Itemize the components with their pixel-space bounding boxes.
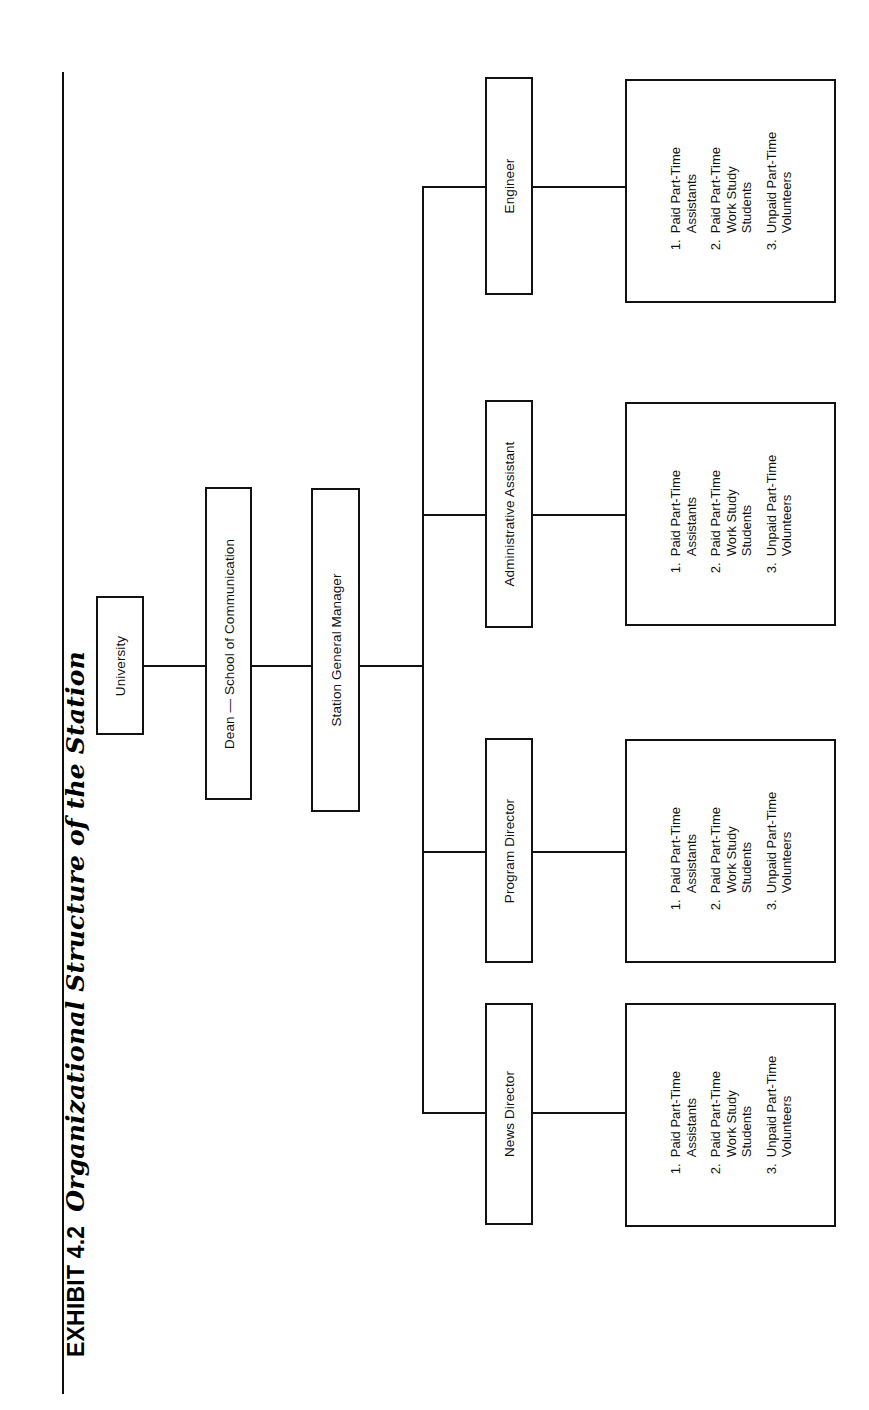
list-item-line: Assistants	[683, 1071, 699, 1157]
node-university[interactable]: University	[96, 596, 144, 735]
list-item-line: Paid Part-Time	[667, 470, 683, 556]
exhibit-page: EXHIBIT 4.2 Organizational Structure of …	[0, 0, 869, 1410]
connector-university-to-dean	[143, 665, 207, 667]
list-item-line: Unpaid Part-Time	[763, 132, 779, 233]
list-item-text: Paid Part-Time Work Study Students	[707, 470, 754, 556]
list-item: 2. Paid Part-Time Work Study Students	[707, 132, 754, 250]
list-item-number: 3.	[763, 233, 794, 250]
node-engineer[interactable]: Engineer	[485, 77, 533, 295]
connector-admin-assistant-to-staff	[533, 514, 626, 516]
list-item: 1. Paid Part-Time Assistants	[667, 132, 698, 250]
list-item-number: 3.	[763, 1157, 794, 1174]
list-item-line: Unpaid Part-Time	[763, 792, 779, 893]
list-item-line: Paid Part-Time	[667, 1071, 683, 1157]
list-item: 3. Unpaid Part-Time Volunteers	[763, 792, 794, 910]
list-item-text: Unpaid Part-Time Volunteers	[763, 132, 794, 233]
list-item-number: 1.	[667, 1157, 698, 1174]
connector-spine-to-engineer	[422, 186, 486, 188]
list-item-line: Unpaid Part-Time	[763, 455, 779, 556]
list-item-line: Paid Part-Time	[707, 807, 723, 893]
node-administrative-assistant[interactable]: Administrative Assistant	[485, 400, 533, 628]
staff-list-administrative-assistant-rotated: 1. Paid Part-Time Assistants 2. Paid Par…	[667, 455, 794, 573]
node-program-director[interactable]: Program Director	[485, 738, 533, 963]
node-program-director-label: Program Director	[502, 798, 517, 902]
list-item-number: 2.	[707, 556, 754, 573]
list-item-number: 3.	[763, 893, 794, 910]
list-item-line: Paid Part-Time	[707, 1071, 723, 1157]
list-item-line: Unpaid Part-Time	[763, 1056, 779, 1157]
list-item: 2. Paid Part-Time Work Study Students	[707, 1056, 754, 1174]
list-item-line: Paid Part-Time	[707, 147, 723, 233]
list-item-line: Assistants	[683, 807, 699, 893]
list-item-number: 1.	[667, 893, 698, 910]
staff-box-engineer[interactable]: 1. Paid Part-Time Assistants 2. Paid Par…	[625, 79, 836, 303]
list-item-line: Paid Part-Time	[667, 147, 683, 233]
list-item-line: Students	[738, 1071, 754, 1157]
list-item-line: Students	[738, 807, 754, 893]
connector-spine-to-news-director	[422, 1112, 486, 1114]
list-item-line: Paid Part-Time	[707, 470, 723, 556]
list-item-line: Volunteers	[778, 1056, 794, 1157]
node-engineer-label: Engineer	[502, 159, 517, 214]
list-item-line: Volunteers	[778, 792, 794, 893]
list-item-line: Assistants	[683, 470, 699, 556]
list-item-text: Paid Part-Time Work Study Students	[707, 807, 754, 893]
list-item-line: Work Study	[723, 470, 739, 556]
list-item: 2. Paid Part-Time Work Study Students	[707, 792, 754, 910]
list-item-line: Volunteers	[778, 455, 794, 556]
staff-list: 1. Paid Part-Time Assistants 2. Paid Par…	[667, 132, 794, 250]
title-underline-rule	[62, 72, 64, 1394]
staff-list: 1. Paid Part-Time Assistants 2. Paid Par…	[667, 1056, 794, 1174]
list-item-text: Paid Part-Time Assistants	[667, 147, 698, 233]
staff-box-program-director[interactable]: 1. Paid Part-Time Assistants 2. Paid Par…	[625, 739, 836, 963]
list-item-text: Paid Part-Time Work Study Students	[707, 1071, 754, 1157]
list-item-number: 2.	[707, 1157, 754, 1174]
node-station-general-manager[interactable]: Station General Manager	[311, 488, 360, 812]
exhibit-number-label: EXHIBIT 4.2	[63, 1226, 90, 1357]
staff-box-administrative-assistant[interactable]: 1. Paid Part-Time Assistants 2. Paid Par…	[625, 402, 836, 626]
node-dean[interactable]: Dean — School of Communication	[205, 487, 252, 800]
list-item-text: Paid Part-Time Assistants	[667, 470, 698, 556]
node-dean-label: Dean — School of Communication	[221, 538, 236, 748]
connector-dean-to-gm	[251, 665, 312, 667]
list-item: 2. Paid Part-Time Work Study Students	[707, 455, 754, 573]
list-item-number: 1.	[667, 556, 698, 573]
list-item: 3. Unpaid Part-Time Volunteers	[763, 132, 794, 250]
list-item-text: Paid Part-Time Work Study Students	[707, 147, 754, 233]
exhibit-title-block: EXHIBIT 4.2 Organizational Structure of …	[0, 0, 90, 1410]
list-item-number: 2.	[707, 893, 754, 910]
staff-list-news-director-rotated: 1. Paid Part-Time Assistants 2. Paid Par…	[667, 1056, 794, 1174]
connector-spine-to-program-director	[422, 851, 486, 853]
list-item: 1. Paid Part-Time Assistants	[667, 792, 698, 910]
list-item-line: Work Study	[723, 147, 739, 233]
page-title: Organizational Structure of the Station	[61, 651, 90, 1212]
list-item-line: Students	[738, 147, 754, 233]
connector-news-director-to-staff	[533, 1112, 626, 1114]
list-item-text: Unpaid Part-Time Volunteers	[763, 1056, 794, 1157]
list-item: 3. Unpaid Part-Time Volunteers	[763, 1056, 794, 1174]
node-news-director[interactable]: News Director	[485, 1003, 533, 1225]
staff-list-program-director-rotated: 1. Paid Part-Time Assistants 2. Paid Par…	[667, 792, 794, 910]
list-item-line: Assistants	[683, 147, 699, 233]
list-item-text: Unpaid Part-Time Volunteers	[763, 455, 794, 556]
list-item-text: Paid Part-Time Assistants	[667, 807, 698, 893]
staff-list: 1. Paid Part-Time Assistants 2. Paid Par…	[667, 792, 794, 910]
list-item: 3. Unpaid Part-Time Volunteers	[763, 455, 794, 573]
connector-spine-to-admin-assistant	[422, 514, 486, 516]
list-item-line: Work Study	[723, 807, 739, 893]
list-item-text: Paid Part-Time Assistants	[667, 1071, 698, 1157]
staff-box-news-director[interactable]: 1. Paid Part-Time Assistants 2. Paid Par…	[625, 1003, 836, 1227]
staff-list: 1. Paid Part-Time Assistants 2. Paid Par…	[667, 455, 794, 573]
list-item-line: Work Study	[723, 1071, 739, 1157]
node-news-director-label: News Director	[502, 1071, 517, 1157]
connector-program-director-to-staff	[533, 851, 626, 853]
list-item-line: Volunteers	[778, 132, 794, 233]
list-item-text: Unpaid Part-Time Volunteers	[763, 792, 794, 893]
node-administrative-assistant-label: Administrative Assistant	[502, 442, 517, 587]
list-item: 1. Paid Part-Time Assistants	[667, 1056, 698, 1174]
list-item-line: Students	[738, 470, 754, 556]
connector-gm-to-spine	[360, 665, 424, 667]
list-item-number: 3.	[763, 556, 794, 573]
list-item-line: Paid Part-Time	[667, 807, 683, 893]
node-station-general-manager-label: Station General Manager	[328, 573, 343, 726]
